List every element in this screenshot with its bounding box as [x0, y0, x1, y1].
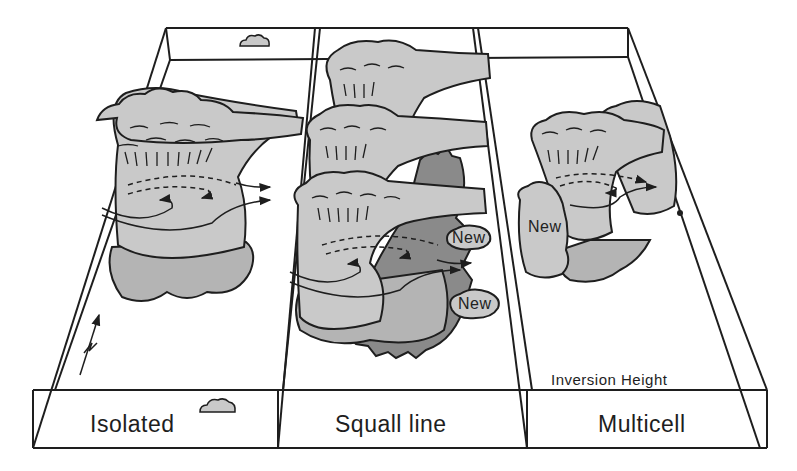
new-cell-label-squall-2: New — [458, 295, 492, 313]
panel-label-multicell: Multicell — [598, 411, 686, 438]
thunderstorm-diagram: New New New Inversion Height Isolated Sq… — [0, 0, 797, 471]
panel-label-squall-line: Squall line — [335, 411, 447, 438]
north-arrow-icon — [80, 315, 99, 375]
small-cloud-icon — [240, 35, 269, 46]
new-cell-label-squall-1: New — [452, 229, 486, 247]
panel-label-isolated: Isolated — [90, 411, 175, 438]
small-cloud-icon — [200, 399, 235, 412]
new-cell-label-multicell: New — [528, 218, 562, 236]
diagram-canvas — [0, 0, 797, 471]
isolated-storm — [97, 88, 303, 301]
inversion-height-label: Inversion Height — [551, 371, 667, 388]
multicell-storms — [518, 101, 683, 282]
